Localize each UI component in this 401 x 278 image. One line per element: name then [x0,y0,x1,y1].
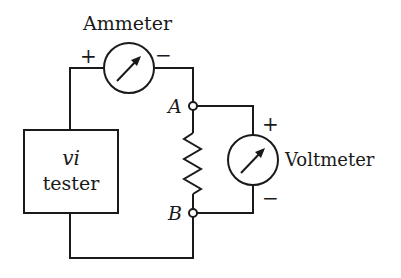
wire-left-top [70,68,104,130]
wire-a-voltmeter [197,106,253,135]
circuit-diagram: Ammeter + − vi tester A B + − Voltmeter [0,0,401,278]
resistor-zigzag [184,133,201,194]
wire-b-voltmeter [197,185,253,213]
voltmeter-minus: − [262,186,279,210]
node-b [189,209,197,217]
voltmeter-label: Voltmeter [284,149,375,170]
node-a [189,102,197,110]
node-a-label: A [166,95,182,117]
node-b-label: B [167,202,182,224]
tester-line1: vi [62,146,80,170]
tester-line2: tester [43,172,101,194]
ammeter [104,43,154,93]
ammeter-minus: − [155,43,172,67]
ammeter-label: Ammeter [82,12,173,34]
ammeter-plus: + [80,44,97,68]
voltmeter-plus: + [262,112,279,136]
voltmeter [228,135,278,185]
